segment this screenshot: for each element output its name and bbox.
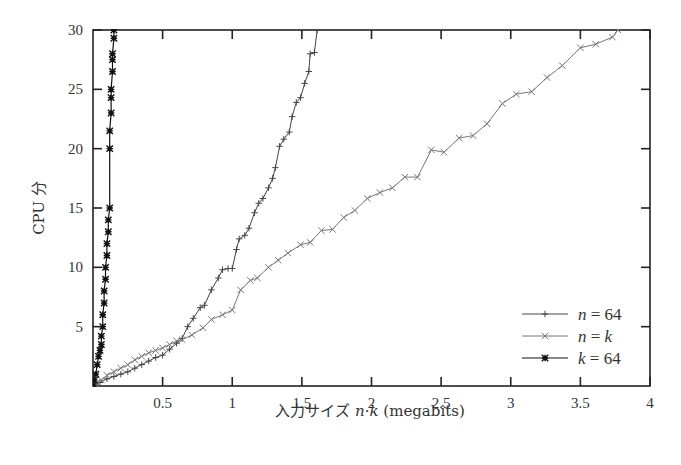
y-tick-label: 5 bbox=[76, 319, 84, 335]
y-tick-label: 30 bbox=[68, 22, 83, 38]
series-line bbox=[96, 30, 317, 385]
plus-marker-icon bbox=[93, 27, 321, 388]
y-tick-label: 20 bbox=[68, 141, 83, 157]
y-axis-title: CPU 分 bbox=[30, 181, 48, 235]
plot-frame bbox=[93, 30, 650, 386]
legend-item: n = k bbox=[522, 327, 613, 346]
legend-label: n = k bbox=[578, 327, 613, 346]
star-marker-icon bbox=[542, 355, 548, 361]
x-tick-label: 4 bbox=[646, 395, 654, 411]
x-axis-title: 入力サイズ n·k (megabits) bbox=[275, 402, 465, 420]
plus-marker-icon bbox=[542, 311, 548, 317]
legend-label: n = 64 bbox=[578, 305, 622, 324]
legend: n = 64n = kk = 64 bbox=[522, 305, 622, 368]
x-tick-label: 3 bbox=[507, 395, 515, 411]
y-tick-label: 15 bbox=[68, 200, 83, 216]
y-axis-ticks: 51015202530 bbox=[68, 22, 650, 335]
x-tick-label: 0.5 bbox=[153, 395, 172, 411]
legend-label: k = 64 bbox=[578, 349, 621, 368]
x-tick-label: 3.5 bbox=[571, 395, 590, 411]
x-axis-title-prefix: 入力サイズ bbox=[275, 402, 355, 420]
legend-item: n = 64 bbox=[522, 305, 622, 324]
plot-border bbox=[93, 30, 650, 386]
x-axis-title-suffix: (megabits) bbox=[379, 402, 465, 420]
series-line bbox=[96, 30, 618, 384]
series-layer bbox=[90, 27, 621, 389]
x-axis-title-var: n·k bbox=[355, 402, 379, 420]
y-tick-label: 25 bbox=[68, 81, 83, 97]
y-tick-label: 10 bbox=[68, 259, 83, 275]
legend-item: k = 64 bbox=[522, 349, 621, 368]
series-n-eq-64 bbox=[93, 27, 321, 388]
x-tick-label: 1 bbox=[229, 395, 237, 411]
chart: 0.511.522.533.54 51015202530 入力サイズ n·k (… bbox=[0, 0, 681, 465]
